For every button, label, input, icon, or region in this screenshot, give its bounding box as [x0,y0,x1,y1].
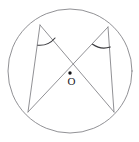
chord-top-right-to-bottom-left [28,27,108,112]
inscribed-angle-arc-top-right [93,44,111,48]
chord-top-left-to-bottom-right [40,25,114,112]
geometry-figure-container: O [0,0,139,142]
circle-center-label: O [68,75,76,87]
circle-geometry-diagram: O [0,0,139,142]
chord-left-side [28,25,40,112]
main-circle [8,9,132,133]
chord-right-side [108,27,114,112]
